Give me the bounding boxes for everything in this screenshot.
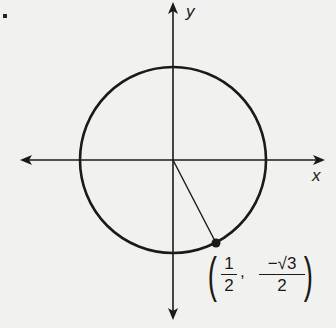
y-numerator: −√3 bbox=[259, 254, 305, 275]
x-fraction: 1 2 bbox=[221, 254, 237, 297]
x-axis-label: x bbox=[312, 166, 321, 186]
x-numerator: 1 bbox=[221, 254, 237, 275]
y-fraction: −√3 2 bbox=[259, 254, 305, 297]
comma: , bbox=[240, 262, 245, 282]
point-coordinate-label: ( 1 2 , −√3 2 ) bbox=[210, 252, 322, 306]
right-paren: ) bbox=[304, 248, 313, 302]
x-denominator: 2 bbox=[221, 275, 237, 297]
y-axis-label: y bbox=[186, 2, 195, 22]
left-paren: ( bbox=[208, 248, 217, 302]
radius-segment bbox=[173, 160, 216, 243]
y-denominator: 2 bbox=[259, 275, 305, 297]
